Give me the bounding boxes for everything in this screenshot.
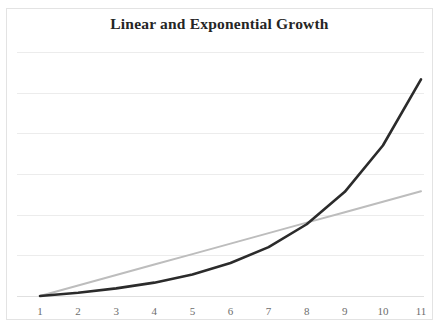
x-tick-label: 10 — [377, 305, 388, 317]
x-tick-label: 1 — [37, 305, 43, 317]
series-line-exponential — [40, 79, 421, 296]
chart-card: Linear and Exponential Growth 1234567891… — [6, 8, 433, 320]
x-tick-label: 9 — [342, 305, 348, 317]
x-tick-label: 2 — [75, 305, 81, 317]
x-tick-label: 3 — [113, 305, 119, 317]
x-tick-label: 11 — [416, 305, 427, 317]
chart-title: Linear and Exponential Growth — [7, 15, 432, 33]
plot-area — [17, 36, 424, 301]
series-line-linear — [40, 191, 421, 296]
x-tick-label: 7 — [266, 305, 272, 317]
x-tick-label: 5 — [190, 305, 196, 317]
series-lines — [17, 36, 424, 301]
x-tick-label: 8 — [304, 305, 310, 317]
x-tick-label: 4 — [152, 305, 158, 317]
x-axis: 1234567891011 — [17, 305, 424, 323]
x-tick-label: 6 — [228, 305, 234, 317]
